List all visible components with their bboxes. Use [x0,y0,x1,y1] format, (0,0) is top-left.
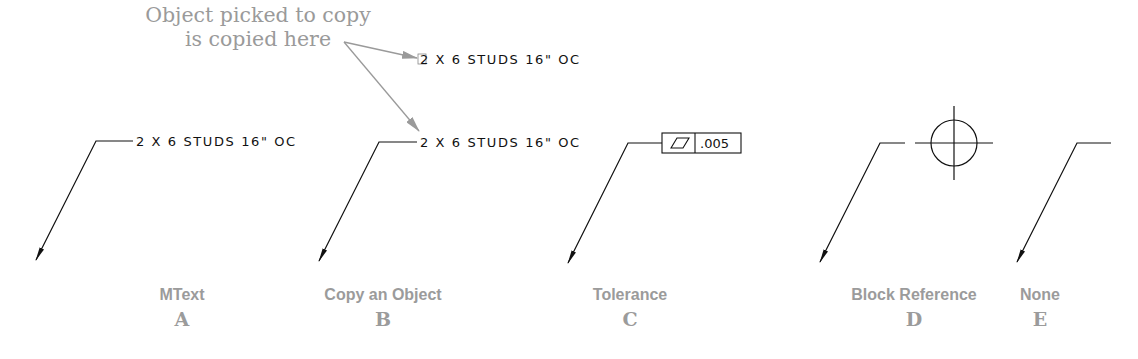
panel-e-none-leader [1017,143,1111,262]
panel-label-d: Block Reference D [851,286,976,331]
leader-line [568,143,662,263]
panel-b-copy-leader: 2 X 6 STUDS 16" OC 2 X 6 STUDS 16" OC [319,52,581,261]
panel-letter: C [593,307,667,331]
panel-letter: B [324,307,441,331]
copied-source-text: 2 X 6 STUDS 16" OC [420,52,581,67]
panel-name: Block Reference [851,286,976,304]
panel-label-b: Copy an Object B [324,286,441,331]
copied-annotation: 2 X 6 STUDS 16" OC [420,135,581,150]
leader-line [820,143,905,262]
panel-label-a: MText A [159,286,204,331]
callout-line-2: is copied here [185,27,331,51]
panel-label-c: Tolerance C [593,286,667,331]
mtext-annotation: 2 X 6 STUDS 16" OC [136,134,297,149]
leader-line [1017,143,1111,262]
callout-line-1: Object picked to copy [145,3,371,27]
panel-d-block-leader [820,106,993,262]
panel-a-mtext-leader: 2 X 6 STUDS 16" OC [36,134,297,260]
tolerance-value: .005 [700,136,729,151]
callout-note: Object picked to copy is copied here [145,3,419,131]
panel-name: Copy an Object [324,286,441,304]
panel-letter: E [1020,307,1060,331]
panel-name: None [1020,286,1060,304]
panel-c-tolerance-leader: .005 [568,133,741,263]
flatness-symbol-icon [671,138,689,148]
panel-name: Tolerance [593,286,667,304]
leader-line [319,142,417,261]
panel-letter: A [159,307,204,331]
panel-letter: D [851,307,976,331]
block-reference-crosshair-circle-icon [915,106,993,180]
leader-line [36,141,133,260]
panel-name: MText [159,286,204,304]
panel-label-e: None E [1020,286,1060,331]
